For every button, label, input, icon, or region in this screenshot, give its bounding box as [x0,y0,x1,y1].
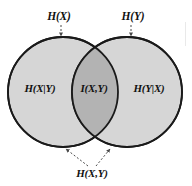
arrow-to-joint-entropy-right [96,149,110,166]
label-conditional-x-given-y: H(X|Y) [13,83,67,94]
page-scan-artifact [185,22,186,46]
venn-diagram-figure: H(X) H(Y) H(X|Y) I(X,Y) H(Y|X) H(X,Y) [0,0,192,186]
label-entropy-y: H(Y) [110,11,156,23]
label-conditional-y-given-x: H(Y|X) [122,83,176,94]
label-joint-entropy: H(X,Y) [62,168,122,179]
label-entropy-x: H(X) [36,11,82,23]
arrow-to-joint-entropy-left [66,149,88,166]
label-mutual-information: I(X,Y) [73,83,115,94]
